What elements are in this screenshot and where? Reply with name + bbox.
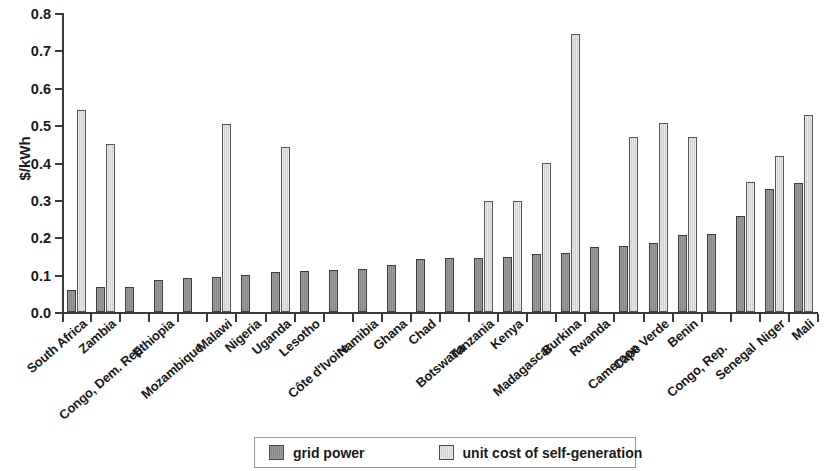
bar-grid-power	[183, 278, 192, 312]
bar-self-generation	[484, 201, 493, 312]
y-tick-label: 0.8	[31, 6, 51, 22]
bar-self-generation	[513, 201, 522, 312]
bar-grid-power	[794, 183, 803, 312]
legend-label-grid-power: grid power	[293, 445, 365, 461]
bar-grid-power	[561, 253, 570, 312]
bar-grid-power	[736, 216, 745, 312]
y-tick-mark	[55, 50, 62, 52]
y-tick-label: 0.4	[31, 156, 51, 172]
y-tick-mark	[55, 312, 62, 314]
x-axis-labels: South AfricaZambiaCongo, Dem. Rep.Ethiop…	[62, 316, 818, 416]
y-tick-mark	[55, 13, 62, 15]
bar-grid-power	[212, 277, 221, 312]
y-tick-label: 0.5	[31, 118, 51, 134]
y-tick-mark	[55, 275, 62, 277]
legend-label-self-generation: unit cost of self-generation	[463, 445, 643, 461]
y-tick-mark	[55, 88, 62, 90]
y-tick-label: 0.3	[31, 193, 51, 209]
bar-self-generation	[106, 144, 115, 312]
bar-grid-power	[300, 271, 309, 312]
legend-swatch-light-gray-square	[439, 445, 454, 460]
bar-chart: $/kWh 0.00.10.20.30.40.50.60.70.8 South …	[0, 0, 824, 471]
bar-grid-power	[765, 189, 774, 312]
bar-self-generation	[688, 137, 697, 312]
x-axis-label: Kenya	[487, 316, 526, 352]
y-tick-label: 0.2	[31, 230, 51, 246]
legend-item-self-generation: unit cost of self-generation	[439, 445, 643, 461]
bar-self-generation	[77, 110, 86, 312]
bar-self-generation	[804, 115, 813, 312]
bar-self-generation	[659, 123, 668, 312]
y-axis-line	[62, 13, 64, 314]
bar-grid-power	[154, 280, 163, 312]
bar-grid-power	[125, 287, 134, 312]
bar-grid-power	[503, 257, 512, 312]
x-axis-label: Benin	[664, 316, 700, 350]
bar-self-generation	[571, 34, 580, 312]
x-axis-label: Mali	[788, 316, 816, 343]
legend-item-grid-power: grid power	[269, 445, 365, 461]
bar-grid-power	[619, 246, 628, 312]
bar-self-generation	[775, 156, 784, 312]
y-tick-label: 0.7	[31, 43, 51, 59]
bar-grid-power	[96, 287, 105, 312]
bar-grid-power	[358, 269, 367, 312]
bar-grid-power	[590, 247, 599, 312]
bar-self-generation	[281, 147, 290, 312]
y-tick-mark	[55, 237, 62, 239]
y-tick-mark	[55, 163, 62, 165]
bar-grid-power	[678, 235, 687, 312]
y-tick-mark	[55, 200, 62, 202]
bar-grid-power	[445, 258, 454, 312]
bar-self-generation	[746, 182, 755, 312]
x-axis-label: Ethiopia	[130, 316, 177, 360]
bar-grid-power	[532, 254, 541, 312]
bar-self-generation	[222, 124, 231, 312]
y-tick-label: 0.0	[31, 305, 51, 321]
legend-swatch-dark-gray-square	[269, 445, 284, 460]
bar-grid-power	[387, 265, 396, 312]
plot-area: 0.00.10.20.30.40.50.60.70.8	[62, 13, 818, 313]
bar-grid-power	[67, 290, 76, 312]
y-tick-label: 0.6	[31, 81, 51, 97]
bar-grid-power	[271, 272, 280, 312]
bar-grid-power	[649, 243, 658, 312]
bar-self-generation	[542, 163, 551, 312]
bar-grid-power	[474, 258, 483, 312]
bar-grid-power	[416, 259, 425, 312]
bar-grid-power	[329, 270, 338, 312]
bar-grid-power	[241, 275, 250, 312]
y-tick-mark	[55, 125, 62, 127]
x-axis-label: Chad	[405, 316, 439, 348]
bar-grid-power	[707, 234, 716, 312]
chart-legend: grid power unit cost of self-generation	[254, 437, 636, 468]
y-tick-label: 0.1	[31, 268, 51, 284]
x-axis-label: Cape Verde	[610, 316, 672, 372]
x-axis-label: Niger	[754, 316, 788, 348]
bar-self-generation	[629, 137, 638, 312]
